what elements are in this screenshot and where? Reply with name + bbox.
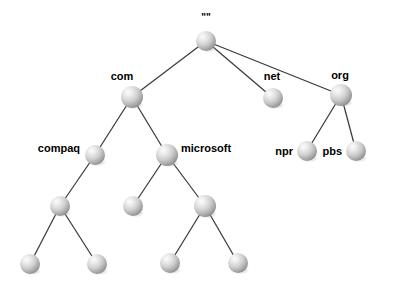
node-sphere-net[interactable] <box>263 88 283 108</box>
tree-node-ms-child-left[interactable] <box>123 196 145 217</box>
node-sphere-leaf-2[interactable] <box>87 254 107 274</box>
tree-node-org[interactable] <box>330 84 354 108</box>
node-sphere-compaq[interactable] <box>85 145 105 165</box>
tree-node-microsoft[interactable] <box>156 144 180 168</box>
node-label-root: "" <box>201 12 211 23</box>
tree-node-npr[interactable] <box>297 141 319 162</box>
node-sphere-org[interactable] <box>330 84 352 106</box>
node-sphere-com[interactable] <box>121 86 143 108</box>
node-label-com: com <box>111 70 134 82</box>
tree-node-ms-child-right[interactable] <box>194 195 218 219</box>
tree-node-root[interactable] <box>196 31 218 52</box>
node-label-pbs: pbs <box>322 145 342 157</box>
tree-node-leaf-2[interactable] <box>87 254 109 275</box>
node-sphere-ms-child-left[interactable] <box>123 196 143 216</box>
labels-layer: ""comnetorgcompaqmicrosoftnprpbs <box>38 12 349 157</box>
tree-node-compaq-child[interactable] <box>50 196 72 217</box>
node-label-net: net <box>264 70 281 82</box>
node-sphere-npr[interactable] <box>297 141 317 161</box>
node-sphere-leaf-3[interactable] <box>160 253 180 273</box>
tree-node-compaq[interactable] <box>85 145 107 166</box>
tree-node-net[interactable] <box>263 88 285 109</box>
node-sphere-compaq-child[interactable] <box>50 196 70 216</box>
node-sphere-ms-child-right[interactable] <box>194 195 216 217</box>
tree-node-pbs[interactable] <box>346 141 368 162</box>
tree-node-leaf-1[interactable] <box>20 254 42 275</box>
node-label-microsoft: microsoft <box>181 142 231 154</box>
tree-edge-root-to-org <box>206 41 341 95</box>
node-sphere-root[interactable] <box>196 31 216 51</box>
tree-node-leaf-3[interactable] <box>160 253 182 274</box>
node-sphere-leaf-4[interactable] <box>228 253 248 273</box>
node-label-org: org <box>331 69 349 81</box>
dns-hierarchy-tree-diagram: ""comnetorgcompaqmicrosoftnprpbs <box>0 0 400 288</box>
node-label-compaq: compaq <box>38 142 80 154</box>
node-sphere-leaf-1[interactable] <box>20 254 40 274</box>
node-label-npr: npr <box>275 145 293 157</box>
tree-edge-root-to-com <box>132 41 206 97</box>
node-sphere-microsoft[interactable] <box>156 144 178 166</box>
tree-node-leaf-4[interactable] <box>228 253 250 274</box>
node-sphere-pbs[interactable] <box>346 141 366 161</box>
